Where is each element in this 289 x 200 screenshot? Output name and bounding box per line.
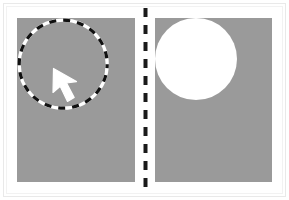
filled-white-disc [155,18,237,100]
figure-root [0,0,289,200]
result-panel-label [154,17,155,18]
mouse-pointer-arrow[interactable] [52,67,86,105]
cursor-arrow-shape [53,69,77,102]
dashed-vertical-divider [143,8,148,194]
